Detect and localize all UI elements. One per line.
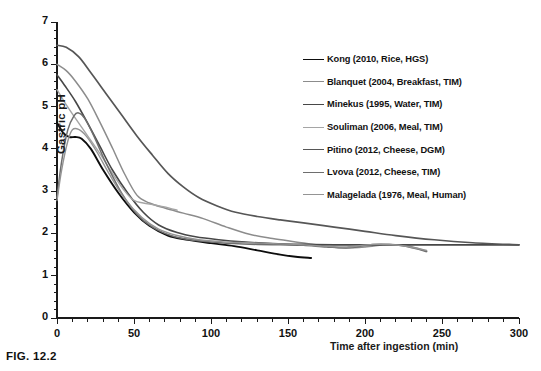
figure-caption: FIG. 12.2 <box>6 350 57 362</box>
chart-legend: Kong (2010, Rice, HGS)Blanquet (2004, Br… <box>303 48 538 206</box>
legend-swatch-icon <box>303 127 324 128</box>
legend-swatch-icon <box>303 59 324 60</box>
x-tick-label: 200 <box>350 327 380 339</box>
legend-item[interactable]: Kong (2010, Rice, HGS) <box>303 48 538 71</box>
x-tick-label: 0 <box>42 327 72 339</box>
legend-item-label: Malagelada (1976, Meal, Human) <box>327 190 466 200</box>
legend-item-label: Lvova (2012, Cheese, TIM) <box>327 167 440 177</box>
legend-item[interactable]: Malagelada (1976, Meal, Human) <box>303 184 538 207</box>
legend-swatch-icon <box>303 104 324 105</box>
legend-swatch-icon <box>303 172 324 173</box>
legend-item-label: Souliman (2006, Meal, TIM) <box>327 122 443 132</box>
x-tick-label: 250 <box>427 327 457 339</box>
legend-item[interactable]: Souliman (2006, Meal, TIM) <box>303 116 538 139</box>
x-tick-label: 100 <box>196 327 226 339</box>
figure-root: 01234567 050100150200250300 Gastric pH T… <box>0 0 541 371</box>
x-tick-label: 50 <box>119 327 149 339</box>
y-axis-title: Gastric pH <box>55 69 67 179</box>
legend-item[interactable]: Lvova (2012, Cheese, TIM) <box>303 161 538 184</box>
y-tick-label: 0 <box>26 310 48 322</box>
y-tick-label: 1 <box>26 268 48 280</box>
y-tick-label: 5 <box>26 99 48 111</box>
x-axis-title: Time after ingestion (min) <box>330 340 458 352</box>
legend-item-label: Kong (2010, Rice, HGS) <box>327 54 428 64</box>
y-tick-label: 2 <box>26 225 48 237</box>
legend-item-label: Blanquet (2004, Breakfast, TIM) <box>327 77 462 87</box>
chart-plot-area: 01234567 050100150200250300 Gastric pH T… <box>0 0 541 341</box>
y-tick-label: 7 <box>26 14 48 26</box>
legend-item-label: Pitino (2012, Cheese, DGM) <box>327 145 445 155</box>
legend-item[interactable]: Pitino (2012, Cheese, DGM) <box>303 138 538 161</box>
y-tick-label: 4 <box>26 141 48 153</box>
legend-item[interactable]: Minekus (1995, Water, TIM) <box>303 93 538 116</box>
legend-swatch-icon <box>303 81 324 82</box>
y-tick-label: 3 <box>26 183 48 195</box>
legend-item[interactable]: Blanquet (2004, Breakfast, TIM) <box>303 71 538 94</box>
x-tick-label: 150 <box>273 327 303 339</box>
x-tick-label: 300 <box>504 327 534 339</box>
y-tick-label: 6 <box>26 56 48 68</box>
legend-swatch-icon <box>303 194 324 195</box>
legend-swatch-icon <box>303 149 324 150</box>
legend-item-label: Minekus (1995, Water, TIM) <box>327 99 442 109</box>
